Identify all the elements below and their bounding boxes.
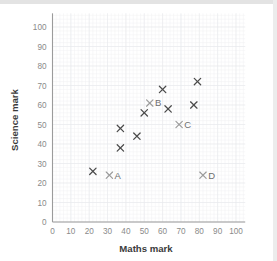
y-tick-label: 10 [37, 199, 47, 208]
x-tick-label: 100 [229, 227, 243, 236]
x-axis-tick-labels: 0102030405060708090100 [50, 227, 243, 236]
x-tick-label: 60 [158, 227, 168, 236]
y-tick-label: 60 [37, 101, 47, 110]
data-point-label: A [115, 170, 122, 181]
y-tick-label: 40 [37, 140, 47, 149]
y-axis-tick-labels: 0102030405060708090100 [33, 23, 47, 227]
y-tick-label: 80 [37, 62, 47, 71]
x-tick-label: 80 [195, 227, 205, 236]
y-tick-label: 30 [37, 160, 47, 169]
x-tick-label: 90 [213, 227, 223, 236]
x-tick-label: 50 [140, 227, 150, 236]
grid-minor-lines [53, 13, 246, 222]
y-tick-label: 0 [42, 218, 47, 227]
scatter-chart: 0102030405060708090100 01020304050607080… [0, 0, 277, 261]
data-point-label: B [155, 97, 161, 108]
x-tick-label: 20 [85, 227, 95, 236]
x-axis-title: Maths mark [119, 243, 173, 254]
scatter-plot-screenshot: 0102030405060708090100 01020304050607080… [0, 0, 277, 261]
x-tick-label: 70 [176, 227, 186, 236]
y-axis-title: Science mark [9, 88, 20, 151]
x-tick-label: 10 [66, 227, 76, 236]
y-tick-label: 20 [37, 179, 47, 188]
data-point-label: D [208, 170, 215, 181]
x-tick-label: 30 [103, 227, 113, 236]
x-tick-label: 40 [121, 227, 131, 236]
y-tick-label: 50 [37, 121, 47, 130]
y-tick-label: 90 [37, 43, 47, 52]
data-point-label: C [184, 119, 191, 130]
x-tick-label: 0 [50, 227, 55, 236]
y-tick-label: 70 [37, 82, 47, 91]
y-tick-label: 100 [33, 23, 47, 32]
